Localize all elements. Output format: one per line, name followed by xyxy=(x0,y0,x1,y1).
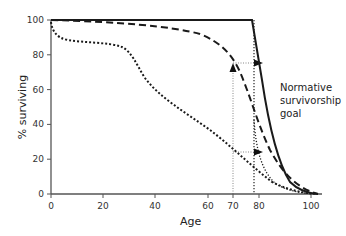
x-tick-label: 70 xyxy=(227,201,239,211)
annotation-line: goal xyxy=(280,108,301,119)
reference-lines xyxy=(230,20,264,194)
x-axis-title: Age xyxy=(180,215,202,228)
x-tick-label: 80 xyxy=(253,201,265,211)
y-tick-label: 80 xyxy=(33,50,45,60)
x-tick-label: 20 xyxy=(97,201,109,211)
arrow-up-icon xyxy=(230,63,237,72)
y-tick-label: 0 xyxy=(38,189,44,199)
series-compressed-dotted xyxy=(254,120,316,194)
survivorship-chart: 0 20 40 60 80 100 0 20 40 60 70 80 100 A… xyxy=(0,0,346,236)
x-tick-label: 60 xyxy=(202,201,214,211)
series-dashed xyxy=(51,20,318,194)
y-ticks: 0 20 40 60 80 100 xyxy=(27,15,51,199)
x-tick-label: 0 xyxy=(48,201,54,211)
y-tick-label: 60 xyxy=(33,85,45,95)
series-normative-solid xyxy=(51,20,318,194)
x-tick-label: 40 xyxy=(149,201,161,211)
series-historical-dotted xyxy=(51,22,318,194)
y-tick-label: 100 xyxy=(27,15,44,25)
y-tick-label: 20 xyxy=(33,154,45,164)
normative-goal-annotation: Normative survivorship goal xyxy=(280,82,341,119)
arrow-right-icon xyxy=(254,149,263,156)
annotation-line: Normative xyxy=(280,82,332,93)
y-tick-label: 40 xyxy=(33,119,45,129)
x-tick-label: 100 xyxy=(302,201,319,211)
x-ticks: 0 20 40 60 70 80 100 xyxy=(48,194,320,211)
y-axis-title: % surviving xyxy=(16,75,29,139)
annotation-line: survivorship xyxy=(280,95,341,106)
